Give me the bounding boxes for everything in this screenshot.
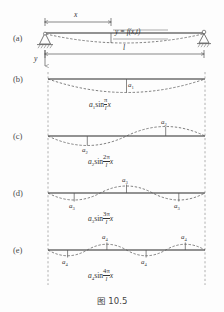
- dimension-label-l: l: [123, 43, 125, 52]
- panel-label-d: (d): [13, 188, 23, 198]
- panel-label-e: (e): [13, 245, 22, 255]
- formula-c: a2sin2πlx: [88, 154, 113, 168]
- axis-label-y: y: [34, 54, 37, 63]
- figure-caption: 图 10.5: [0, 294, 224, 306]
- panel-e-graphic: [48, 243, 205, 258]
- amplitude-label-a3-mid: a3: [122, 176, 128, 185]
- amplitude-label-a4-3: a4: [141, 258, 147, 267]
- amplitude-label-a4-4: a4: [181, 233, 187, 242]
- panel-d-graphic: [48, 185, 205, 202]
- amplitude-label-a2-upper: a2: [161, 118, 167, 127]
- panel-label-a: (a): [13, 33, 22, 43]
- panel-a-graphic: [37, 18, 211, 66]
- formula-b: a1sinπlx: [89, 97, 111, 111]
- panel-b-graphic: [48, 79, 205, 93]
- amplitude-label-a3-left: a3: [69, 202, 75, 211]
- formula-d: a3sin3πlx: [88, 211, 113, 225]
- dimension-label-x: x: [74, 10, 77, 19]
- amplitude-label-a3-right: a3: [174, 202, 180, 211]
- amplitude-label-a4-2: a4: [102, 233, 108, 242]
- curve-label-y-f-x-t: y = f(x,t): [115, 28, 140, 36]
- panel-label-c: (c): [13, 131, 22, 141]
- panel-c-graphic: [48, 127, 205, 146]
- amplitude-label-a4-1: a4: [62, 258, 68, 267]
- amplitude-label-a2-lower: a2: [82, 146, 88, 155]
- formula-e: a4sin4πlx: [88, 268, 113, 282]
- panel-label-b: (b): [13, 74, 23, 84]
- figure-vibration-modes: (a) (b) (c) (d) (e) x l y y = f(x,t) a1 …: [0, 0, 224, 312]
- amplitude-label-a1: a1: [128, 81, 134, 90]
